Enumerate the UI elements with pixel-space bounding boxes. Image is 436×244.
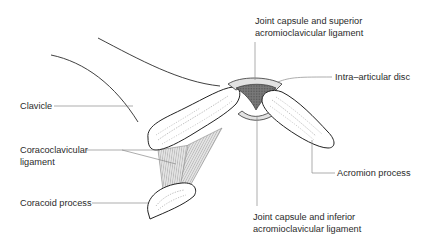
label-coracoclavicular-ligament: Coracoclavicular ligament [20, 144, 88, 168]
label-coracoclavicular-line2: ligament [20, 156, 88, 168]
label-inferior-acromioclavicular-ligament: Joint capsule and inferior acromioclavic… [253, 211, 361, 235]
leader-intra-articular-disc [278, 77, 332, 82]
acromion-process-bone [262, 90, 334, 148]
label-superior-line2: acromioclavicular ligament [255, 27, 363, 39]
shoulder-contour-lower [51, 55, 138, 122]
label-superior-line1: Joint capsule and superior [255, 15, 363, 27]
coracoid-process-bone [148, 183, 196, 219]
label-coracoclavicular-line1: Coracoclavicular [20, 144, 88, 156]
label-inferior-line2: acromioclavicular ligament [253, 223, 361, 235]
shoulder-contour-upper [98, 38, 220, 86]
label-superior-acromioclavicular-ligament: Joint capsule and superior acromioclavic… [255, 15, 363, 39]
label-intra-articular-disc: Intra–articular disc [335, 71, 410, 83]
label-coracoid-process: Coracoid process [20, 197, 92, 209]
label-acromion-process: Acromion process [337, 167, 411, 179]
label-inferior-line1: Joint capsule and inferior [253, 211, 361, 223]
clavicle-bone [148, 87, 240, 150]
label-clavicle: Clavicle [20, 100, 52, 112]
